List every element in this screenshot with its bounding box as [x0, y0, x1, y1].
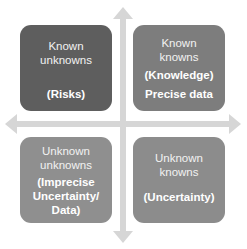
title-line-2: unknowns — [20, 158, 112, 172]
quadrant-title: Unknown knowns — [133, 151, 225, 179]
quadrant-subtitle: (Imprecise Uncertainty/ Data) — [20, 175, 112, 217]
quadrant-known-unknowns: Known unknowns (Risks) — [20, 25, 112, 111]
title-line-1: Known — [20, 39, 112, 53]
title-line-2: knowns — [133, 165, 225, 179]
quadrant-title: Unknown unknowns — [20, 144, 112, 172]
quadrant-subtitle: (Risks) — [20, 87, 112, 101]
arrow-right-icon — [229, 114, 241, 134]
quadrant-subtitle: (Knowledge) — [133, 68, 225, 82]
title-line-1: Unknown — [20, 144, 112, 158]
arrow-down-icon — [113, 231, 133, 243]
quadrant-subtitle: (Uncertainty) — [133, 190, 225, 204]
subtitle-line-2: Uncertainty/ — [20, 189, 112, 203]
horizontal-axis-shaft — [15, 121, 231, 127]
subtitle-line-1: (Imprecise — [20, 175, 112, 189]
title-line-2: knowns — [133, 50, 225, 64]
quadrant-note: Precise data — [133, 87, 225, 101]
arrow-up-icon — [113, 7, 133, 19]
title-line-1: Known — [133, 36, 225, 50]
subtitle-line-3: Data) — [20, 203, 112, 217]
quadrant-title: Known unknowns — [20, 39, 112, 67]
title-line-2: unknowns — [20, 53, 112, 67]
arrow-left-icon — [5, 114, 17, 134]
quadrant-unknown-knowns: Unknown knowns (Uncertainty) — [133, 137, 225, 223]
quadrant-known-knowns: Known knowns (Knowledge) Precise data — [133, 25, 225, 111]
quadrant-title: Known knowns — [133, 36, 225, 64]
title-line-1: Unknown — [133, 151, 225, 165]
quadrant-unknown-unknowns: Unknown unknowns (Imprecise Uncertainty/… — [20, 137, 112, 223]
